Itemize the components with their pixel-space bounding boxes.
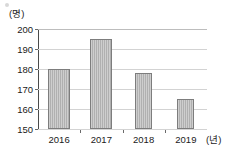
bar-2018: [135, 73, 152, 129]
image-speck-artifact: [5, 3, 9, 7]
y-axis-tick-label: 170: [7, 84, 33, 95]
y-axis-tick-label: 160: [7, 104, 33, 115]
y-tick-mark-180: [35, 69, 38, 70]
y-axis-tick-label: 190: [7, 44, 33, 55]
gridline-200: [38, 29, 207, 30]
bar-chart-figure: (명) 200190180170160150 2016201720182019 …: [0, 0, 230, 153]
plot-area: 200190180170160150 2016201720182019: [38, 29, 207, 130]
bar-2017: [90, 39, 112, 129]
y-axis-line: [38, 29, 39, 130]
x-axis-tick-label-2017: 2017: [91, 134, 112, 145]
x-axis-unit-label: (년): [206, 134, 221, 145]
bar-2016: [48, 69, 70, 129]
x-axis-tick-label-2018: 2018: [133, 134, 154, 145]
x-tick-mark: [123, 130, 124, 133]
y-tick-mark-160: [35, 109, 38, 110]
y-tick-mark-190: [35, 49, 38, 50]
y-axis-tick-label: 200: [7, 24, 33, 35]
y-axis-tick-label: 180: [7, 64, 33, 75]
x-tick-mark: [80, 130, 81, 133]
y-tick-mark-200: [35, 29, 38, 30]
y-tick-mark-170: [35, 89, 38, 90]
gridline-190: [38, 49, 207, 50]
x-axis-tick-label-2016: 2016: [49, 134, 70, 145]
x-tick-mark: [165, 130, 166, 133]
y-tick-mark-150: [35, 129, 38, 130]
y-axis-unit-label: (명): [9, 8, 24, 19]
x-axis-tick-label-2019: 2019: [175, 134, 196, 145]
y-axis-tick-label: 150: [7, 124, 33, 135]
bar-2019: [177, 99, 194, 129]
